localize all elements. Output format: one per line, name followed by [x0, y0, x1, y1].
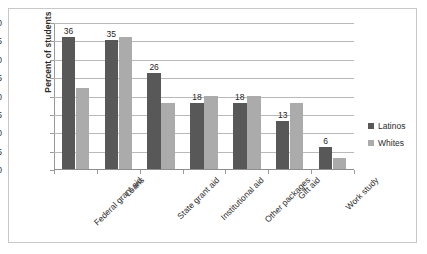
legend-item-latinos[interactable]: Latinos: [368, 117, 405, 134]
bar-latinos[interactable]: [190, 103, 204, 169]
legend-label: Whites: [378, 138, 404, 148]
x-axis-tick-mark: [268, 170, 269, 174]
bar-latinos[interactable]: [147, 73, 161, 169]
x-axis-label: State grant aid: [175, 175, 221, 221]
bar-whites[interactable]: [119, 37, 133, 169]
bar-whites[interactable]: [161, 103, 175, 169]
bar-whites[interactable]: [333, 158, 347, 169]
plot-area: 4035302520151050 3635261818136: [54, 23, 354, 170]
bar-whites[interactable]: [204, 96, 218, 170]
bar-value-label: 26: [141, 62, 167, 72]
bar-latinos[interactable]: [276, 121, 290, 169]
y-axis-tick-label: 25: [0, 73, 2, 83]
y-axis-tick-label: 30: [0, 55, 2, 65]
x-axis-tick-mark: [54, 170, 55, 174]
bar-group: 6: [311, 22, 354, 169]
legend-item-whites[interactable]: Whites: [368, 134, 405, 151]
x-axis-label: Loans: [123, 175, 146, 198]
bar-latinos[interactable]: [319, 147, 333, 169]
y-axis-tick-label: 5: [0, 147, 2, 157]
y-axis-tick-label: 15: [0, 110, 2, 120]
bar-group: 18: [183, 22, 226, 169]
bar-whites[interactable]: [247, 96, 261, 170]
bar-group: 13: [268, 22, 311, 169]
y-axis-tick-label: 20: [0, 92, 2, 102]
bar-latinos[interactable]: [105, 40, 119, 169]
bar-whites[interactable]: [76, 88, 90, 169]
bar-group: 18: [225, 22, 268, 169]
chart-frame: Percent of students 4035302520151050 363…: [8, 8, 417, 243]
y-axis-tick-label: 10: [0, 128, 2, 138]
bar-latinos[interactable]: [62, 37, 76, 169]
x-axis-tick-mark: [311, 170, 312, 174]
x-axis-tick-mark: [183, 170, 184, 174]
bar-value-label: 36: [55, 26, 81, 36]
x-axis-label: Other packages: [262, 175, 312, 225]
x-axis-line: [54, 169, 354, 170]
bar-group: 26: [140, 22, 183, 169]
y-axis-tick-label: 0: [0, 165, 2, 175]
y-axis-tick-label: 40: [0, 18, 2, 28]
x-axis-tick-mark: [225, 170, 226, 174]
bar-group: 36: [54, 22, 97, 169]
x-axis-label: Work study: [343, 175, 380, 212]
y-axis-tick-label: 35: [0, 36, 2, 46]
legend-swatch-icon: [368, 123, 374, 129]
x-axis-label: Institutional aid: [219, 175, 266, 222]
legend-label: Latinos: [378, 121, 405, 131]
x-axis-tick-mark: [354, 170, 355, 174]
bar-latinos[interactable]: [233, 103, 247, 169]
chart-legend: LatinosWhites: [368, 117, 405, 151]
legend-swatch-icon: [368, 140, 374, 146]
bar-whites[interactable]: [290, 103, 304, 169]
x-axis-tick-mark: [140, 170, 141, 174]
x-axis-tick-mark: [97, 170, 98, 174]
bar-group: 35: [97, 22, 140, 169]
bar-value-label: 6: [313, 136, 339, 146]
